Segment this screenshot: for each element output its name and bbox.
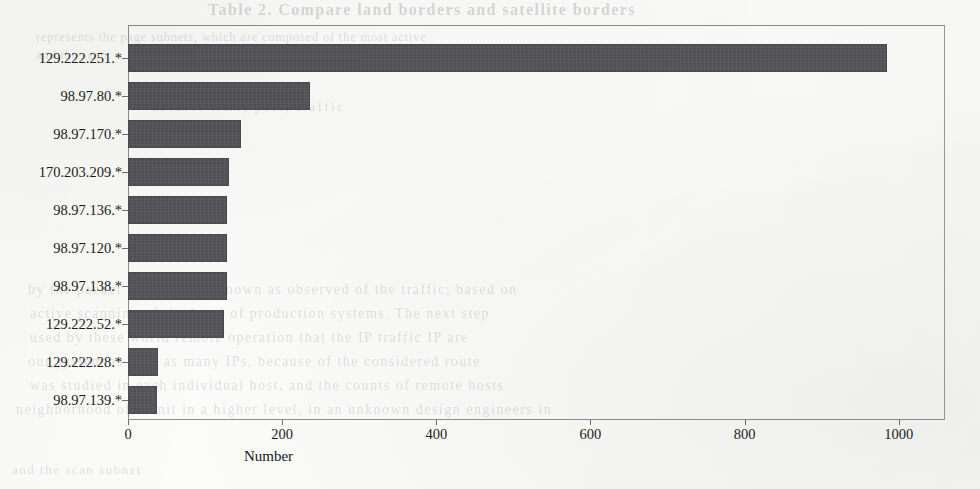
bar-row [128, 44, 945, 72]
bar-129.222.52.* [128, 310, 224, 338]
x-tick-mark [436, 420, 437, 425]
y-tick-label: 98.97.138.* [53, 279, 122, 294]
x-tick-label: 1000 [884, 427, 913, 442]
bar-129.222.28.* [128, 348, 158, 376]
y-tick-mark [122, 172, 128, 173]
bar-170.203.209.* [128, 158, 229, 186]
y-tick-label: 129.222.28.* [46, 355, 122, 370]
y-tick-mark [122, 286, 128, 287]
y-tick-label: 98.97.139.* [53, 393, 122, 408]
y-tick-label: 98.97.170.* [53, 127, 122, 142]
x-tick-label: 600 [580, 427, 602, 442]
x-tick-label: 800 [734, 427, 756, 442]
plot-area [128, 25, 945, 420]
y-tick-label: 129.222.251.* [39, 51, 122, 66]
bar-row [128, 158, 945, 186]
bar-row [128, 386, 945, 414]
bar-98.97.139.* [128, 386, 157, 414]
chart-page: Table 2. Compare land borders and satell… [0, 0, 980, 489]
y-tick-mark [122, 324, 128, 325]
y-tick-mark [122, 362, 128, 363]
bar-row [128, 348, 945, 376]
bar-98.97.138.* [128, 272, 227, 300]
x-tick-label: 0 [124, 427, 131, 442]
y-tick-mark [122, 96, 128, 97]
bar-98.97.80.* [128, 82, 310, 110]
x-tick-label: 400 [425, 427, 447, 442]
y-tick-mark [122, 248, 128, 249]
bar-98.97.170.* [128, 120, 241, 148]
x-axis-title-text: Number [244, 448, 293, 465]
bar-129.222.251.* [128, 44, 887, 72]
y-tick-label: 98.97.120.* [53, 241, 122, 256]
y-tick-mark [122, 58, 128, 59]
y-tick-mark [122, 400, 128, 401]
x-tick-mark [282, 420, 283, 425]
bleed-through-title: Table 2. Compare land borders and satell… [208, 1, 636, 19]
bar-row [128, 272, 945, 300]
bar-row [128, 82, 945, 110]
y-tick-mark [122, 210, 128, 211]
x-tick-label: 200 [271, 427, 293, 442]
bar-98.97.136.* [128, 196, 227, 224]
y-axis-labels: 129.222.251.*98.97.80.*98.97.170.*170.20… [0, 0, 122, 489]
bar-row [128, 310, 945, 338]
y-tick-label: 129.222.52.* [46, 317, 122, 332]
x-tick-mark [745, 420, 746, 425]
bar-row [128, 234, 945, 262]
bar-row [128, 196, 945, 224]
x-tick-mark [899, 420, 900, 425]
y-tick-label: 98.97.80.* [60, 89, 122, 104]
y-tick-mark [122, 134, 128, 135]
bar-row [128, 120, 945, 148]
y-tick-label: 170.203.209.* [39, 165, 122, 180]
x-tick-mark [590, 420, 591, 425]
bar-98.97.120.* [128, 234, 227, 262]
y-tick-label: 98.97.136.* [53, 203, 122, 218]
x-tick-mark [128, 420, 129, 425]
x-axis-title: Number [0, 448, 980, 465]
